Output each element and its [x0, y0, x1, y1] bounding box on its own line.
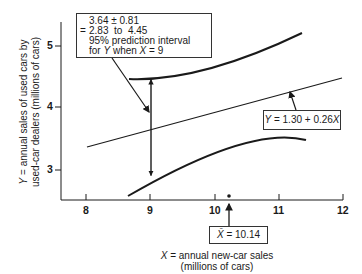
y-var: Y — [18, 178, 29, 185]
x-tick-9: 9 — [147, 204, 153, 216]
y-label-line1: = annual sales of used cars by — [18, 40, 29, 178]
equation-callout-pointer — [290, 92, 296, 110]
equation-body: = 1.30 + 0.26 — [271, 114, 333, 125]
interval-x-value: = 9 — [146, 45, 163, 56]
lower-prediction-band — [128, 137, 306, 196]
interval-callout-pointer — [112, 58, 149, 112]
y-tick-5: 5 — [47, 39, 53, 51]
interval-line4: for Y when X = 9 — [89, 46, 163, 57]
interval-equals: = — [80, 26, 86, 37]
interval-callout-box: 3.64 ± 0.81 = 2.83 to 4.45 95% predictio… — [76, 13, 212, 58]
x-tick-11: 11 — [273, 204, 284, 216]
y-label-line2: used-car dealers (millions of cars) — [30, 12, 42, 212]
equation-callout-box: Y = 1.30 + 0.26X — [263, 110, 341, 130]
y-tick-3: 3 — [47, 163, 53, 175]
equation-x-var: X — [333, 114, 340, 125]
mean-callout-box: X̄ = 10.14 — [209, 226, 268, 244]
x-label-line2: (millions of cars) — [152, 261, 282, 272]
x-tick-8: 8 — [83, 204, 89, 216]
mean-x-var: X̄ — [217, 229, 224, 240]
x-label-line1: = annual new-car sales — [167, 250, 273, 261]
x-axis-label: X = annual new-car sales (millions of ca… — [152, 250, 282, 272]
mean-dot — [227, 194, 231, 198]
x-axis — [61, 194, 343, 200]
interval-when: when — [110, 45, 139, 56]
y-axis — [55, 22, 61, 200]
interval-for: for — [89, 45, 103, 56]
y-axis-label: Y = annual sales of used cars by used-ca… — [18, 12, 42, 212]
x-tick-12: 12 — [337, 204, 349, 216]
mean-value: = 10.14 — [224, 229, 260, 240]
y-tick-4: 4 — [47, 100, 53, 112]
x-tick-10: 10 — [209, 204, 221, 216]
